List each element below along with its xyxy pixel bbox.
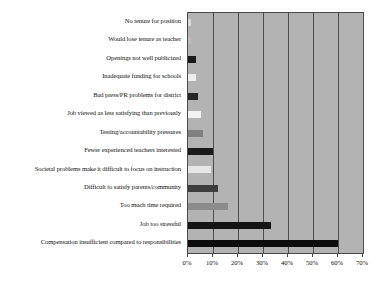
- x-axis-tick-label: 0%: [183, 259, 192, 266]
- bar: [188, 111, 201, 118]
- x-axis-tick-label: 40%: [281, 259, 293, 266]
- bar-row: [188, 105, 363, 123]
- x-axis-tick-label: 50%: [306, 259, 318, 266]
- x-axis-tick-label: 60%: [331, 259, 343, 266]
- x-axis-tick-label: 20%: [231, 259, 243, 266]
- bar: [188, 56, 196, 63]
- category-label: Too much time required: [0, 197, 184, 215]
- x-axis-tick: [362, 253, 363, 257]
- bar-row: [188, 68, 363, 86]
- category-label: Societal problems make it difficult to f…: [0, 160, 184, 178]
- x-axis-tick: [337, 253, 338, 257]
- bar-row: [188, 87, 363, 105]
- bar-row: [188, 13, 363, 31]
- bar: [188, 93, 198, 100]
- x-axis-tick-label: 70%: [356, 259, 368, 266]
- x-axis-tick: [262, 253, 263, 257]
- bar-row: [188, 31, 363, 49]
- category-label: Openings not well publicized: [0, 49, 184, 67]
- bar-row: [188, 124, 363, 142]
- category-label: Bad press/PR problems for district: [0, 86, 184, 104]
- bar-row: [188, 142, 363, 160]
- category-label: Fewer experienced teachers interested: [0, 141, 184, 159]
- bar: [188, 74, 196, 81]
- bar: [188, 37, 191, 44]
- bar-row: [188, 50, 363, 68]
- x-axis-tick: [237, 253, 238, 257]
- bar: [188, 148, 213, 155]
- category-label: Would lose tenure as teacher: [0, 30, 184, 48]
- bar: [188, 19, 191, 26]
- bar: [188, 203, 228, 210]
- bar-row: [188, 198, 363, 216]
- plot-area: [187, 12, 364, 254]
- category-label: Testing/accountability pressures: [0, 123, 184, 141]
- bar-series: [188, 13, 363, 253]
- bar: [188, 222, 271, 229]
- bar: [188, 240, 338, 247]
- category-label: Compensation insufficient compared to re…: [0, 234, 184, 252]
- bar: [188, 130, 203, 137]
- bar-row: [188, 161, 363, 179]
- horizontal-bar-chart: No tenure for position Would lose tenure…: [0, 0, 380, 289]
- bar-row: [188, 179, 363, 197]
- category-label: Job viewed as less satisfying than previ…: [0, 104, 184, 122]
- category-label: Inadequate funding for schools: [0, 67, 184, 85]
- x-axis-tick: [287, 253, 288, 257]
- gridline: [363, 13, 364, 253]
- x-axis-tick-label: 10%: [206, 259, 218, 266]
- bar-row: [188, 235, 363, 253]
- x-axis-tick: [312, 253, 313, 257]
- category-label: Difficult to satisfy parents/community: [0, 178, 184, 196]
- x-axis-tick: [212, 253, 213, 257]
- category-label: Job too stressful: [0, 215, 184, 233]
- x-axis-tick-label: 30%: [256, 259, 268, 266]
- bar: [188, 185, 218, 192]
- bar-row: [188, 216, 363, 234]
- x-axis-tick: [187, 253, 188, 257]
- category-axis-labels: No tenure for position Would lose tenure…: [0, 12, 184, 252]
- category-label: No tenure for position: [0, 12, 184, 30]
- bar: [188, 166, 211, 173]
